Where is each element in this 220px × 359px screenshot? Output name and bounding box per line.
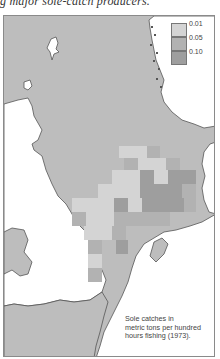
- legend-swatch-1: [171, 37, 187, 51]
- map-caption: Sole catches in metric tons per hundred …: [125, 315, 201, 341]
- map-frame: [3, 15, 215, 357]
- legend-label-0: 0.01: [189, 20, 203, 27]
- legend-swatch-0: [171, 23, 187, 37]
- north-sea-map: [4, 16, 215, 357]
- map-caption-line-3: hours fishing (1973).: [125, 332, 201, 341]
- legend-label-1: 0.05: [189, 34, 203, 41]
- legend-swatch-2: [171, 51, 187, 65]
- legend-label-2: 0.10: [189, 48, 203, 55]
- header-caption-fragment: g major sole-catch producers.: [0, 0, 220, 9]
